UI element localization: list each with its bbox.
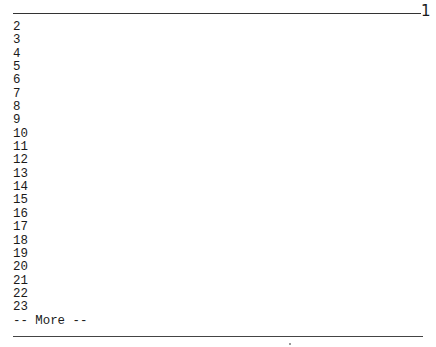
pager-line: 12 (13, 154, 87, 167)
pager-line: 16 (13, 208, 87, 221)
pager-line: 22 (13, 288, 87, 301)
pager-line: 13 (13, 168, 87, 181)
pager-line: 10 (13, 128, 87, 141)
pager-line: 19 (13, 248, 87, 261)
pager-line: 14 (13, 181, 87, 194)
pager-line: 23 (13, 301, 87, 314)
pager-line: 3 (13, 34, 87, 47)
pager-line: 5 (13, 61, 87, 74)
pager-line: 4 (13, 48, 87, 61)
more-prompt[interactable]: -- More -- (13, 315, 87, 328)
pager-line: 20 (13, 261, 87, 274)
pager-line: 11 (13, 141, 87, 154)
page-number: 1 (421, 2, 431, 20)
page-footer-mark (289, 343, 291, 345)
pager-line: 8 (13, 101, 87, 114)
pager-line: 9 (13, 114, 87, 127)
pager-line: 21 (13, 275, 87, 288)
bottom-rule (13, 336, 423, 337)
pager-output: 2 3 4 5 6 7 8 9 10 11 12 13 14 15 16 17 … (13, 21, 87, 328)
pager-line: 18 (13, 235, 87, 248)
pager-line: 6 (13, 74, 87, 87)
pager-line: 7 (13, 88, 87, 101)
pager-line: 15 (13, 194, 87, 207)
pager-line: 2 (13, 21, 87, 34)
top-rule (13, 13, 421, 14)
pager-line: 17 (13, 221, 87, 234)
